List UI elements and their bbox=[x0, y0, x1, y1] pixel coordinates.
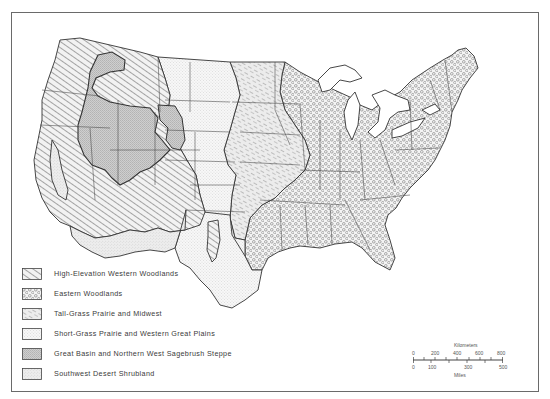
scale-bar: Kilometers 0 200 400 600 800 0 100 300 5… bbox=[413, 342, 533, 382]
curly-swatch-icon bbox=[22, 288, 42, 300]
legend-item-eastern-woodlands: Eastern Woodlands bbox=[22, 288, 282, 302]
legend-item-great-basin: Great Basin and Northern West Sagebrush … bbox=[22, 348, 282, 362]
dots-dense-swatch-icon bbox=[22, 348, 42, 360]
legend-item-southwest-desert: Southwest Desert Shrubland bbox=[22, 368, 282, 382]
legend-item-tall-grass: Tall-Grass Prairie and Midwest bbox=[22, 308, 282, 322]
legend-label: Tall-Grass Prairie and Midwest bbox=[54, 308, 162, 320]
legend-label: Southwest Desert Shrubland bbox=[54, 368, 155, 380]
mile-tick: 500 bbox=[499, 364, 507, 370]
legend-label: Great Basin and Northern West Sagebrush … bbox=[54, 348, 232, 360]
mile-tick: 0 bbox=[412, 364, 415, 370]
stipple-swatch-icon bbox=[22, 368, 42, 380]
mile-tick: 100 bbox=[428, 364, 436, 370]
sketch-swatch-icon bbox=[22, 308, 42, 320]
mile-tick: 300 bbox=[464, 364, 472, 370]
dots-light-swatch-icon bbox=[22, 328, 42, 340]
kilometers-label: Kilometers bbox=[454, 342, 478, 348]
legend-label: Short-Grass Prairie and Western Great Pl… bbox=[54, 328, 215, 340]
hatch-swatch-icon bbox=[22, 268, 42, 280]
legend-label: High-Elevation Western Woodlands bbox=[54, 268, 178, 280]
miles-label: Miles bbox=[454, 372, 466, 378]
legend-item-short-grass: Short-Grass Prairie and Western Great Pl… bbox=[22, 328, 282, 342]
scale-line-icon bbox=[413, 356, 508, 364]
legend-label: Eastern Woodlands bbox=[54, 288, 123, 300]
legend-item-high-elevation: High-Elevation Western Woodlands bbox=[22, 268, 282, 282]
